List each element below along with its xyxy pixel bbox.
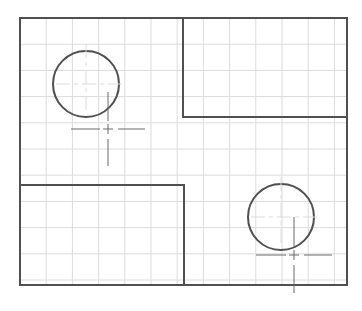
- crosshairs: [71, 92, 332, 293]
- top-right-block: [183, 18, 347, 117]
- cad-drawing-canvas: [0, 0, 362, 311]
- circle-center-marks: [56, 44, 321, 247]
- bottom-left-block: [20, 185, 184, 285]
